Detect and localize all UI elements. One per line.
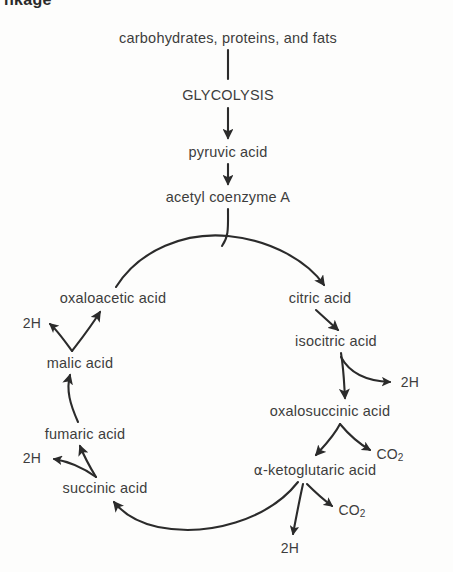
byproduct-2h-ketoglutaric: 2H [281,541,299,555]
byproduct-co2-ketoglutaric: CO2 [338,503,365,519]
node-pyruvic-acid: pyruvic acid [189,145,268,160]
co2-text: CO [376,446,397,462]
arrow-malic-to-oxaloacetic [72,312,100,351]
byproduct-co2-oxalosuccinic: CO2 [376,447,403,463]
node-malic-acid: malic acid [47,356,113,371]
co2-text: CO [338,502,359,518]
arc-fumaric-to-malic [68,375,78,422]
line-acetyl-to-ring [222,209,228,246]
co2-subscript: 2 [360,508,366,519]
byproduct-2h-isocitric: 2H [401,375,419,389]
node-ketoglutaric-acid-text: -ketoglutaric acid [263,462,376,478]
branch-oxalosuccinic-to-CO2 [340,424,370,450]
node-oxaloacetic-acid: oxaloacetic acid [60,291,166,306]
branch-ketoglutaric-to-2H [293,484,303,534]
node-ketoglutaric-acid: α-ketoglutaric acid [254,463,377,478]
node-isocitric-acid: isocitric acid [295,334,377,349]
alpha-symbol: α [254,462,263,478]
node-citric-acid: citric acid [289,291,352,306]
branch-isocitric-to-2H [341,357,390,382]
diagram-canvas: nkage [0,0,453,572]
branch-ketoglutaric-to-CO2 [307,484,332,506]
node-acetyl-coenzyme-a: acetyl coenzyme A [166,190,290,205]
byproduct-2h-fumaric: 2H [23,451,41,465]
node-glycolysis: GLYCOLYSIS [182,88,274,103]
node-oxalosuccinic-acid: oxalosuccinic acid [270,404,390,419]
node-fumaric-acid: fumaric acid [45,427,126,442]
byproduct-2h-malic: 2H [23,316,41,330]
arrow-oxalosuccinic-to-ketoglutaric [316,424,340,455]
arc-oxaloacetic-to-citric [116,235,324,287]
node-substrates: carbohydrates, proteins, and fats [119,31,337,46]
branch-malic-to-2H [50,324,72,351]
arrow-citric-to-isocitric [316,310,338,330]
node-succinic-acid: succinic acid [63,481,148,496]
co2-subscript: 2 [398,452,404,463]
